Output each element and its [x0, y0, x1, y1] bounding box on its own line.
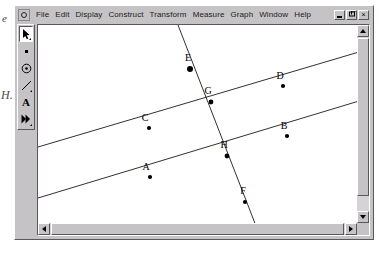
scroll-right-arrow-icon	[349, 226, 353, 232]
point-D[interactable]	[281, 84, 285, 88]
point-label-D[interactable]: D	[276, 70, 283, 81]
point-label-E[interactable]: E	[185, 52, 191, 63]
tool-palette: A	[17, 24, 35, 130]
point-label-H[interactable]: H	[220, 139, 227, 150]
scroll-down-arrow-icon	[360, 215, 366, 219]
point-label-A[interactable]: A	[142, 161, 150, 172]
minimize-button[interactable]	[334, 10, 345, 20]
point-H[interactable]	[225, 154, 230, 159]
menu-item-construct[interactable]: Construct	[105, 10, 146, 20]
compass-circle-tool[interactable]	[19, 60, 33, 76]
menu-item-graph[interactable]: Graph	[227, 10, 256, 20]
menu-item-help[interactable]: Help	[291, 10, 314, 20]
point-A[interactable]	[148, 175, 152, 179]
point-B[interactable]	[285, 134, 289, 138]
transversal-line[interactable]	[178, 25, 270, 223]
line-group	[38, 25, 357, 223]
caption-buttons: ×	[334, 10, 370, 20]
selection-arrow-tool[interactable]	[19, 26, 33, 42]
margin-text-fragment-top: e	[2, 13, 7, 24]
straightedge-tool[interactable]	[19, 77, 33, 93]
text-tool[interactable]: A	[19, 94, 33, 110]
close-icon: ×	[361, 11, 365, 18]
scroll-left-arrow-icon	[42, 226, 46, 232]
menu-item-transform[interactable]: Transform	[147, 10, 190, 20]
scroll-up-button[interactable]	[357, 25, 369, 37]
double-arrow-icon	[21, 114, 32, 124]
horizontal-scroll-thumb[interactable]	[51, 223, 344, 235]
tool-expand-corner	[30, 90, 32, 92]
point-icon	[22, 47, 31, 56]
point-label-C[interactable]: C	[142, 112, 149, 123]
menu-item-measure[interactable]: Measure	[190, 10, 228, 20]
scroll-right-button[interactable]	[345, 223, 357, 235]
horizontal-scrollbar[interactable]	[38, 223, 357, 235]
point-C[interactable]	[147, 126, 151, 130]
point-label-G[interactable]: G	[204, 85, 211, 96]
circle-icon	[21, 63, 32, 74]
point-label-F[interactable]: F	[240, 185, 246, 196]
menu-item-file[interactable]: File	[33, 10, 52, 20]
menu-bar: File Edit Display Construct Transform Me…	[16, 7, 372, 22]
geometry-figure: ABCDEFGH	[38, 25, 357, 223]
tool-expand-corner	[29, 38, 31, 40]
scroll-down-button[interactable]	[357, 211, 369, 223]
menu-item-display[interactable]: Display	[72, 10, 105, 20]
point-label-B[interactable]: B	[281, 120, 288, 131]
scroll-up-arrow-icon	[360, 29, 366, 33]
margin-text-fragment-bottom: H.	[1, 89, 13, 101]
point-E[interactable]	[187, 66, 193, 72]
restore-button[interactable]	[346, 10, 357, 20]
custom-tool[interactable]	[19, 111, 33, 127]
scroll-left-button[interactable]	[38, 223, 50, 235]
sketchpad-window: File Edit Display Construct Transform Me…	[14, 5, 374, 240]
close-button[interactable]: ×	[358, 10, 369, 20]
menu-item-window[interactable]: Window	[256, 10, 291, 20]
line-icon	[21, 80, 32, 91]
point-tool[interactable]	[19, 43, 33, 59]
upper-parallel-line[interactable]	[38, 52, 357, 147]
scrollbar-corner	[357, 223, 369, 235]
vertical-scroll-thumb[interactable]	[357, 38, 369, 196]
point-G[interactable]	[209, 100, 214, 105]
tool-expand-corner	[30, 124, 32, 126]
point-group: ABCDEFGH	[142, 52, 289, 204]
sketchpad-icon[interactable]	[18, 9, 30, 21]
menu-item-edit[interactable]: Edit	[52, 10, 72, 20]
point-F[interactable]	[243, 200, 247, 204]
vertical-scrollbar[interactable]	[357, 25, 369, 223]
lower-parallel-line[interactable]	[38, 101, 357, 198]
sketch-canvas-frame: ABCDEFGH	[37, 24, 370, 236]
sketch-canvas[interactable]: ABCDEFGH	[38, 25, 357, 223]
text-a-icon: A	[22, 97, 30, 108]
